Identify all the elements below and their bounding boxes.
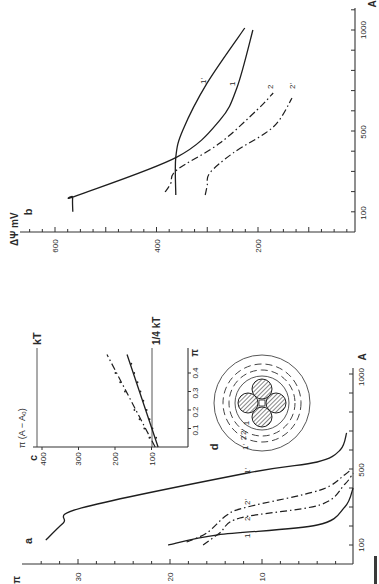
- panel-d: 1 2' 2 1' d: [208, 355, 310, 451]
- panel-d-shell-label-2prime: 2': [239, 429, 248, 435]
- caption-strip: [374, 556, 377, 584]
- panel-a-curve-1prime: [46, 433, 347, 540]
- panel-a-ytick-20: 20: [166, 572, 175, 581]
- panel-c-label: c: [27, 455, 39, 461]
- panel-c-data-point: [134, 409, 136, 411]
- panel-b-ytick-200: 200: [254, 239, 263, 253]
- panel-d-shell-label-2: 2: [239, 435, 248, 440]
- panel-b-curves: [68, 28, 292, 212]
- panel-c-ylabel: π (A − A₀): [17, 408, 27, 448]
- panel-c-data-point: [149, 418, 151, 420]
- panel-a-curves: [46, 433, 353, 545]
- panel-a-xlabel: A: [357, 353, 368, 360]
- panel-d-label: d: [208, 444, 220, 451]
- panel-a: 100 500 1000 A 30 20 10 π a 1' 2' 2 1: [11, 353, 368, 583]
- panel-a-curve-1: [168, 488, 353, 545]
- panel-d-shell-label-1prime: 1': [241, 444, 250, 450]
- panel-c-data-point: [152, 428, 154, 430]
- panel-c-data-point: [143, 428, 145, 430]
- panel-c-data-point: [139, 418, 141, 420]
- figure: 100 500 1000 A 600 400 200 ΔΨ mV b 1' 1 …: [0, 0, 379, 584]
- panel-d-sphere-right: [266, 393, 286, 413]
- panel-c-xtick-01: 0.1: [191, 424, 200, 436]
- panel-b-curve-label-2prime: 2': [288, 83, 297, 89]
- panel-a-curve-label-1: 1: [243, 533, 252, 538]
- panel-c-xtick-03: 0.3: [191, 387, 200, 399]
- panel-c-data-point: [149, 437, 151, 439]
- panel-b-ylabel: ΔΨ mV: [9, 212, 20, 246]
- panel-a-curve-label-1prime: 1': [243, 468, 252, 474]
- panel-c-ytick-300: 300: [74, 452, 83, 466]
- panel-c-plot: [107, 355, 158, 448]
- panel-b-curve-2: [165, 93, 273, 192]
- panel-c-data-point: [119, 381, 121, 383]
- panel-c-kT-label: kT: [31, 332, 43, 345]
- panel-c-data-point: [137, 381, 139, 383]
- panel-c-data-point: [124, 391, 126, 393]
- panel-b-curve-label-1prime: 1': [199, 78, 208, 84]
- panel-d-center-gap: [259, 400, 265, 406]
- panel-a-xtick-100: 100: [357, 538, 366, 552]
- panel-c: 400 300 200 100 0.1 0.2 0.3 0.4 π π (A −…: [17, 317, 200, 466]
- panel-a-label: a: [22, 537, 34, 544]
- panel-b-curve-label-2: 2: [266, 84, 275, 89]
- panel-c-data-point: [142, 400, 144, 402]
- panel-d-sphere-left: [238, 393, 258, 413]
- panel-c-ytick-200: 200: [111, 452, 120, 466]
- panel-b-xtick-500: 500: [359, 125, 368, 139]
- panel-b-ytick-400: 400: [153, 239, 162, 253]
- panel-a-xtick-500: 500: [357, 463, 366, 477]
- panel-d-shell-label-1: 1: [242, 420, 251, 425]
- panel-c-data-point: [140, 391, 142, 393]
- panel-c-quarter-kT-label: 1/4 kT: [151, 317, 162, 345]
- panel-c-xtick-04: 0.4: [191, 367, 200, 379]
- panel-c-ticks: [42, 373, 191, 450]
- panel-c-data-point: [130, 363, 132, 365]
- panel-a-ylabel: π: [11, 576, 22, 584]
- panel-c-xtick-02: 0.2: [191, 406, 200, 418]
- panel-b-xlabel: A: [367, 0, 378, 7]
- panel-a-ticks: [41, 374, 353, 564]
- panel-a-curve-label-2: 2: [243, 516, 252, 521]
- panel-b-ticks: [30, 10, 355, 232]
- panel-b-curve-1prime: [175, 28, 245, 195]
- panel-b: 100 500 1000 A 600 400 200 ΔΨ mV b 1' 1 …: [9, 0, 378, 252]
- panel-c-data-point: [155, 437, 157, 439]
- panel-a-ytick-30: 30: [74, 572, 83, 581]
- panel-b-curve-1: [68, 30, 253, 212]
- panel-c-data-point: [146, 409, 148, 411]
- panel-b-label: b: [22, 208, 34, 215]
- panel-a-xtick-1000: 1000: [357, 368, 366, 386]
- panel-b-ytick-600: 600: [51, 239, 60, 253]
- panel-c-data-point: [115, 372, 117, 374]
- panel-b-curve-2prime: [205, 98, 292, 195]
- panel-c-ytick-400: 400: [39, 452, 48, 466]
- panel-b-xtick-1000: 1000: [359, 21, 368, 39]
- panel-a-ytick-10: 10: [258, 572, 267, 581]
- panel-c-data-point: [133, 372, 135, 374]
- panel-b-xtick-100: 100: [359, 206, 368, 220]
- panel-b-curve-label-1: 1: [228, 81, 237, 86]
- panel-c-xlabel: π: [189, 349, 200, 357]
- panel-c-ytick-100: 100: [148, 452, 157, 466]
- panel-a-curve-label-2prime: 2': [243, 499, 252, 505]
